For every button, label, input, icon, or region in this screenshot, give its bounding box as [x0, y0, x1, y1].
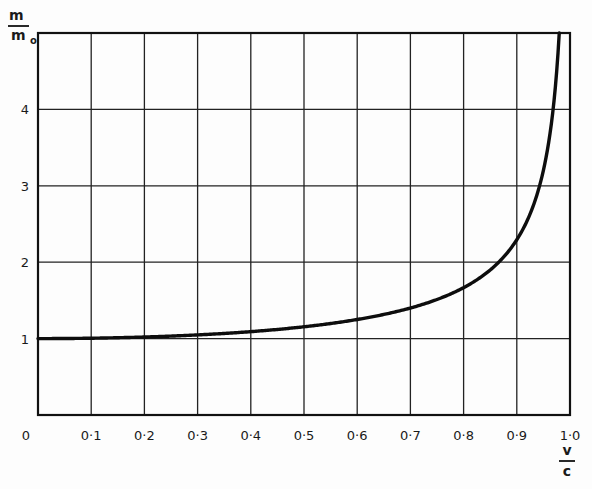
x-tick-labels: 00·10·20·30·40·50·60·70·80·91·0: [22, 428, 580, 443]
y-axis-label: m m o: [8, 7, 37, 46]
y-tick-label: 2: [21, 255, 29, 270]
x-tick-label: 0·8: [453, 428, 474, 443]
grid-lines: [38, 33, 570, 415]
x-tick-label: 0·2: [134, 428, 155, 443]
relativistic-mass-chart: 00·10·20·30·40·50·60·70·80·91·0 1234 m m…: [0, 0, 592, 489]
x-tick-label: 0·7: [400, 428, 421, 443]
x-axis-label-numerator: v: [562, 442, 571, 458]
x-tick-label: 0·5: [294, 428, 315, 443]
x-tick-label: 0·9: [506, 428, 527, 443]
x-tick-label: 0·4: [240, 428, 261, 443]
x-tick-label: 0: [22, 428, 30, 443]
y-axis-label-numerator: m: [9, 7, 24, 23]
x-axis-label: v c: [559, 442, 575, 479]
x-tick-label: 1·0: [560, 428, 581, 443]
x-tick-label: 0·6: [347, 428, 368, 443]
y-tick-label: 1: [21, 332, 29, 347]
x-tick-label: 0·1: [81, 428, 102, 443]
x-tick-label: 0·3: [187, 428, 208, 443]
y-axis-label-subscript: o: [30, 35, 37, 46]
y-tick-label: 4: [21, 102, 29, 117]
y-tick-labels: 1234: [21, 102, 29, 346]
y-tick-label: 3: [21, 179, 29, 194]
x-axis-label-denominator: c: [563, 463, 571, 479]
y-axis-label-denominator: m: [11, 27, 26, 43]
